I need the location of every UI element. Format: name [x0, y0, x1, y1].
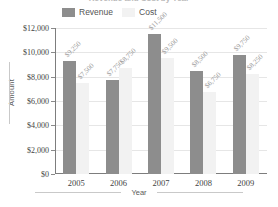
y-axis-title: Amount — [7, 70, 16, 116]
x-axis-tick-label-2007: 2007 — [153, 178, 170, 188]
chart-title: Revenue and Cost by Year — [89, 0, 189, 3]
x-axis-tick-label-2008: 2008 — [195, 178, 212, 188]
y-axis-tick — [51, 174, 55, 175]
y-axis-tick-label: $8,000 — [27, 72, 49, 81]
x-axis-title-rule-right — [157, 192, 243, 193]
bar-value-label: $9,250 — [63, 40, 82, 59]
bar-revenue-2009[interactable]: $9,750 — [233, 55, 246, 174]
y-axis-tick-label: $6,000 — [27, 97, 49, 106]
bar-value-label: $9,750 — [233, 34, 252, 53]
bar-value-label: $6,750 — [203, 71, 222, 90]
y-axis-tick-label: $12,000 — [23, 24, 49, 33]
bar-group: $9,750$8,250 — [225, 28, 267, 174]
bar-cost-2008[interactable]: $6,750 — [203, 92, 216, 174]
bar-value-label: $8,750 — [118, 46, 137, 65]
x-axis-tick-label-2006: 2006 — [110, 178, 127, 188]
bar-value-label: $9,500 — [161, 37, 180, 56]
y-axis-tick-label: $2,000 — [27, 145, 49, 154]
bar-value-label: $8,250 — [246, 52, 265, 71]
y-axis-tick-label: $0 — [41, 170, 49, 179]
bar-cost-2005[interactable]: $7,500 — [76, 83, 89, 174]
bar-chart: Revenue and Cost by Year Revenue Cost Am… — [0, 0, 278, 207]
bar-groups: $9,250$7,500$7,750$8,750$11,500$9,500$8,… — [55, 28, 267, 174]
y-axis-tick-label: $4,000 — [27, 121, 49, 130]
bar-group: $7,750$8,750 — [97, 28, 139, 174]
legend-swatch-cost — [122, 8, 135, 17]
legend-item-cost[interactable]: Cost — [122, 8, 156, 17]
bar-revenue-2007[interactable]: $11,500 — [148, 34, 161, 174]
bar-revenue-2006[interactable]: $7,750 — [106, 80, 119, 174]
legend-label-revenue: Revenue — [79, 8, 113, 17]
chart-title-strip: Revenue and Cost by Year — [0, 0, 278, 7]
legend-item-revenue[interactable]: Revenue — [62, 8, 113, 17]
bar-value-label: $7,500 — [76, 61, 95, 80]
y-axis-tick-label: $10,000 — [23, 48, 49, 57]
x-axis-tick-label-2005: 2005 — [68, 178, 85, 188]
bar-revenue-2008[interactable]: $8,500 — [190, 71, 203, 174]
bar-group: $11,500$9,500 — [140, 28, 182, 174]
bar-cost-2007[interactable]: $9,500 — [161, 58, 174, 174]
x-axis-tick-label-2009: 2009 — [237, 178, 254, 188]
bar-value-label: $8,500 — [190, 49, 209, 68]
y-axis-title-rule — [9, 62, 10, 124]
legend-label-cost: Cost — [139, 8, 156, 17]
chart-legend: Revenue Cost — [62, 8, 157, 17]
bar-group: $9,250$7,500 — [55, 28, 97, 174]
bar-cost-2006[interactable]: $8,750 — [119, 68, 132, 174]
legend-swatch-revenue — [62, 8, 75, 17]
bar-cost-2009[interactable]: $8,250 — [246, 74, 259, 174]
plot-area: $12,000$10,000$8,000$6,000$4,000$2,000$0… — [55, 28, 267, 174]
bar-group: $8,500$6,750 — [182, 28, 224, 174]
bar-revenue-2005[interactable]: $9,250 — [63, 61, 76, 174]
